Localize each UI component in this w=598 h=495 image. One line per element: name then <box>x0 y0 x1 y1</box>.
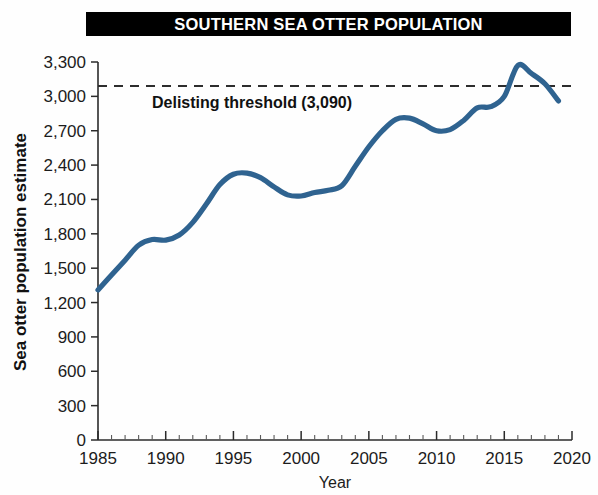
x-tick-label: 2000 <box>282 449 320 468</box>
y-axis-group: 03006009001,2001,5001,8002,1002,4002,700… <box>11 53 98 450</box>
y-tick-label: 3,300 <box>43 53 86 72</box>
x-tick-label: 2010 <box>418 449 456 468</box>
delisting-threshold-label: Delisting threshold (3,090) <box>152 94 352 111</box>
y-tick-label: 0 <box>77 431 86 450</box>
y-tick-label: 3,000 <box>43 87 86 106</box>
y-axis-tick-labels: 03006009001,2001,5001,8002,1002,4002,700… <box>43 53 86 450</box>
y-tick-label: 2,100 <box>43 190 86 209</box>
y-tick-label: 1,200 <box>43 294 86 313</box>
y-axis-title: Sea otter population estimate <box>11 133 30 371</box>
chart-figure: SOUTHERN SEA OTTER POPULATION 0300600900… <box>0 0 598 495</box>
y-tick-label: 300 <box>58 397 86 416</box>
y-tick-label: 900 <box>58 328 86 347</box>
y-tick-label: 1,500 <box>43 259 86 278</box>
y-tick-label: 1,800 <box>43 225 86 244</box>
y-axis-ticks <box>91 62 98 440</box>
x-tick-label: 2020 <box>553 449 591 468</box>
x-tick-label: 1995 <box>215 449 253 468</box>
line-chart-canvas: 03006009001,2001,5001,8002,1002,4002,700… <box>0 0 598 495</box>
y-tick-label: 600 <box>58 362 86 381</box>
x-axis-title: Year <box>319 474 352 491</box>
x-tick-label: 2015 <box>485 449 523 468</box>
x-axis-group: 19851990199520002005201020152020 Year <box>79 431 591 491</box>
x-axis-ticks <box>98 431 572 440</box>
x-tick-label: 2005 <box>350 449 388 468</box>
y-tick-label: 2,700 <box>43 122 86 141</box>
x-tick-label: 1985 <box>79 449 117 468</box>
y-tick-label: 2,400 <box>43 156 86 175</box>
x-axis-tick-labels: 19851990199520002005201020152020 <box>79 449 591 468</box>
x-tick-label: 1990 <box>147 449 185 468</box>
